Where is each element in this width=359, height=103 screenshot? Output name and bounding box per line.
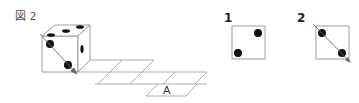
option-1-face [232,26,265,59]
option-1-number: 1 [224,11,232,25]
net-grid [78,60,207,96]
option-2-face [313,24,351,63]
net-cell-a-label: A [163,84,171,97]
option-2-number: 2 [297,11,305,25]
